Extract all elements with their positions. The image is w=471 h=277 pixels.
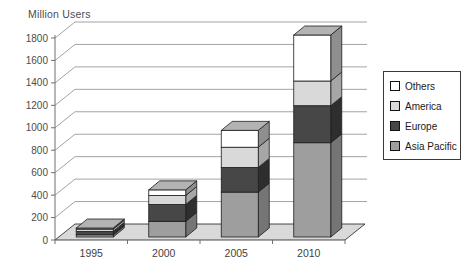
bar-segment-front-america bbox=[221, 147, 258, 167]
legend-item-europe: Europe bbox=[390, 116, 456, 136]
legend-swatch-america bbox=[390, 101, 400, 111]
bar-segment-front-europe bbox=[221, 167, 258, 192]
legend-item-others: Others bbox=[390, 76, 456, 96]
bar-segment-front-europe bbox=[294, 106, 331, 143]
legend-label: Europe bbox=[405, 121, 437, 132]
legend-label: America bbox=[405, 101, 442, 112]
bar-segment-front-others bbox=[149, 190, 186, 196]
bar-segment-front-asia-pacific bbox=[221, 192, 258, 237]
bar-segment-front-america bbox=[294, 81, 331, 106]
bar-segment-front-america bbox=[149, 195, 186, 204]
y-tick-label: 200 bbox=[31, 212, 48, 223]
legend-label: Asia Pacific bbox=[405, 141, 457, 152]
y-tick-label: 800 bbox=[31, 145, 48, 156]
legend-swatch-asia-pacific bbox=[390, 141, 400, 151]
y-tick-label: 400 bbox=[31, 190, 48, 201]
bar-segment-front-europe bbox=[76, 231, 113, 234]
bar-segment-front-others bbox=[294, 35, 331, 81]
y-tick-label: 1400 bbox=[26, 77, 49, 88]
legend-swatch-others bbox=[390, 81, 400, 91]
chart-area: 0200400600800100012001400160018001995200… bbox=[0, 0, 471, 277]
bar-1995 bbox=[76, 219, 124, 237]
y-tick-label: 600 bbox=[31, 167, 48, 178]
bar-segment-front-others bbox=[221, 130, 258, 147]
y-tick-label: 1000 bbox=[26, 122, 49, 133]
bar-segment-side-others bbox=[331, 26, 342, 81]
x-category-label: 2010 bbox=[297, 247, 321, 259]
bar-segment-front-asia-pacific bbox=[294, 143, 331, 237]
legend-label: Others bbox=[405, 81, 435, 92]
x-category-label: 2000 bbox=[152, 247, 176, 259]
legend-item-asia-pacific: Asia Pacific bbox=[390, 136, 456, 156]
x-category-label: 1995 bbox=[80, 247, 104, 259]
legend-swatch-europe bbox=[390, 121, 400, 131]
bar-segment-side-asia-pacific bbox=[331, 134, 342, 237]
y-tick-label: 0 bbox=[42, 235, 48, 246]
y-tick-label: 1800 bbox=[26, 33, 49, 44]
bar-segment-front-asia-pacific bbox=[149, 221, 186, 237]
bar-segment-front-europe bbox=[149, 204, 186, 221]
y-tick-label: 1600 bbox=[26, 55, 49, 66]
y-tick-label: 1200 bbox=[26, 100, 49, 111]
x-category-label: 2005 bbox=[225, 247, 249, 259]
legend: OthersAmericaEuropeAsia Pacific bbox=[383, 71, 461, 160]
bar-2005 bbox=[221, 121, 269, 237]
bar-2000 bbox=[149, 181, 197, 237]
y-axis-title: Million Users bbox=[28, 8, 91, 20]
bar-2010 bbox=[294, 26, 342, 237]
legend-item-america: America bbox=[390, 96, 456, 116]
